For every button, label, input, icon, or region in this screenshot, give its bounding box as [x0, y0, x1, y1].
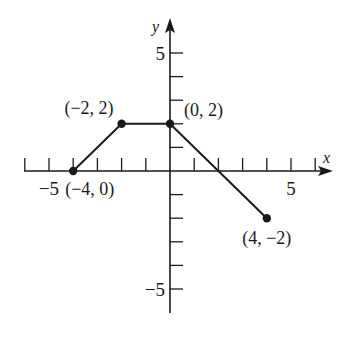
y-tick-label: 5: [156, 43, 166, 64]
y-tick-label: −5: [145, 279, 165, 300]
x-tick-label: 5: [286, 178, 296, 199]
data-point: [263, 214, 271, 222]
point-label: (−4, 0): [65, 179, 114, 200]
point-labels: (−4, 0)(−2, 2)(0, 2)(4, −2): [64, 98, 291, 249]
x-tick-label: −5: [39, 178, 59, 199]
piecewise-graph: −555−5 x y (−4, 0)(−2, 2)(0, 2)(4, −2): [0, 0, 342, 338]
point-label: (−2, 2): [64, 98, 113, 119]
data-point: [117, 120, 125, 128]
point-label: (0, 2): [184, 100, 223, 121]
y-axis-label: y: [150, 18, 160, 36]
x-axis-label: x: [322, 149, 330, 166]
data-point: [69, 167, 77, 175]
point-label: (4, −2): [242, 228, 291, 249]
data-point: [166, 120, 174, 128]
